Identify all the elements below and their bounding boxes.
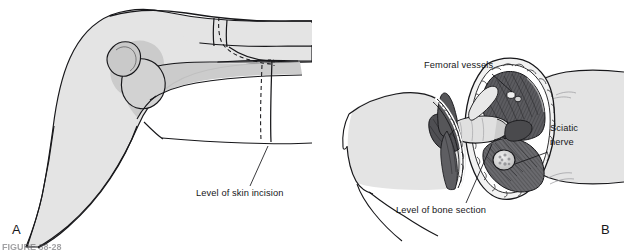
label-sciatic-nerve-line1: Sciatic (550, 123, 578, 133)
panel-a-incision-solid-mid (226, 20, 227, 47)
panel-a-leader-line (250, 146, 268, 186)
figure-illustration: Level of skin incision A (0, 0, 624, 251)
panel-a-thigh-bottom-contour (162, 138, 312, 144)
panel-b-sciatic-nerve (493, 150, 515, 170)
figure-container: Level of skin incision A (0, 0, 624, 251)
panel-a-posterior-contour (144, 122, 163, 139)
label-bone-section: Level of bone section (396, 205, 486, 215)
label-sciatic-nerve-line2: nerve (550, 137, 574, 147)
panel-a-letter: A (12, 222, 21, 237)
panel-b-femoral-artery (507, 92, 515, 99)
label-femoral-vessels: Femoral vessels (424, 60, 493, 70)
panel-b-letter: B (601, 222, 610, 237)
panel-a-illustration (26, 10, 312, 248)
figure-caption-cutoff: FIGURE 38-28 (2, 243, 62, 251)
panel-a-incision-solid-anterior (213, 18, 214, 46)
panel-b-femoral-vein (515, 96, 522, 102)
label-skin-incision: Level of skin incision (196, 188, 283, 198)
